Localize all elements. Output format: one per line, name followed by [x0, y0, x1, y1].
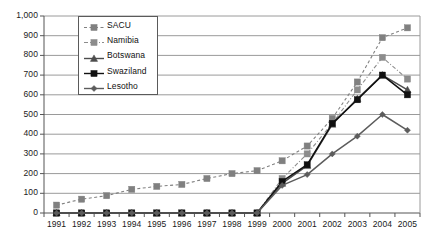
y-axis-tick-label: 900 [0, 30, 38, 40]
legend-marker-icon [83, 65, 105, 76]
plot-area [0, 0, 431, 248]
data-point-marker [179, 181, 185, 187]
y-axis-tick-label: 700 [0, 69, 38, 79]
y-axis-tick-label: 400 [0, 128, 38, 138]
data-point-marker [404, 25, 410, 31]
y-axis-tick-label: 500 [0, 109, 38, 119]
legend-label: Namibia [107, 35, 139, 45]
data-point-marker [91, 70, 97, 76]
data-point-marker [229, 171, 235, 177]
data-point-marker [91, 25, 97, 31]
legend-marker-icon [83, 80, 105, 91]
y-axis-tick-label: 200 [0, 168, 38, 178]
data-point-marker [354, 87, 360, 93]
y-axis-tick-label: 0 [0, 207, 38, 217]
y-axis-tick-label: 800 [0, 49, 38, 59]
data-point-marker [79, 196, 85, 202]
legend-marker-icon [83, 34, 105, 45]
y-axis-tick-label: 600 [0, 89, 38, 99]
data-point-marker [129, 186, 135, 192]
data-point-marker [404, 92, 410, 98]
series-lesotho [54, 112, 411, 217]
legend-label: Botswana [107, 50, 145, 60]
legend-marker-icon [83, 19, 105, 30]
data-point-marker [304, 151, 310, 157]
data-point-marker [354, 79, 360, 85]
legend-item-botswana: Botswana [79, 48, 157, 63]
legend-item-lesotho: Lesotho [79, 78, 157, 93]
data-point-marker [379, 72, 385, 78]
series-line [57, 75, 408, 213]
data-point-marker [254, 168, 260, 174]
data-point-marker [279, 158, 285, 164]
series-line [57, 75, 408, 213]
data-point-marker [304, 143, 310, 149]
legend-marker-icon [83, 50, 105, 61]
x-axis-tick-label: 2005 [392, 219, 422, 229]
data-point-marker [404, 76, 410, 82]
data-point-marker [304, 162, 310, 168]
legend-label: SACU [107, 20, 131, 30]
legend-item-namibia: Namibia [79, 32, 157, 47]
data-point-marker [329, 120, 335, 126]
data-point-marker [104, 193, 110, 199]
data-point-marker [91, 86, 97, 92]
data-point-marker [91, 40, 97, 46]
data-point-marker [154, 183, 160, 189]
legend-label: Lesotho [107, 81, 138, 91]
chart-legend: SACUNamibiaBotswanaSwazilandLesotho [78, 16, 158, 95]
data-point-marker [379, 35, 385, 41]
data-point-marker [379, 54, 385, 60]
legend-label: Swaziland [107, 66, 147, 76]
y-axis-tick-label: 1,000 [0, 10, 38, 20]
data-point-marker [53, 202, 59, 208]
y-axis-tick-label: 100 [0, 187, 38, 197]
legend-item-swaziland: Swaziland [79, 63, 157, 78]
legend-item-sacu: SACU [79, 17, 157, 32]
y-axis-tick-label: 300 [0, 148, 38, 158]
line-chart: 01002003004005006007008009001,0001991199… [0, 0, 431, 248]
data-point-marker [354, 97, 360, 103]
data-point-marker [204, 175, 210, 181]
